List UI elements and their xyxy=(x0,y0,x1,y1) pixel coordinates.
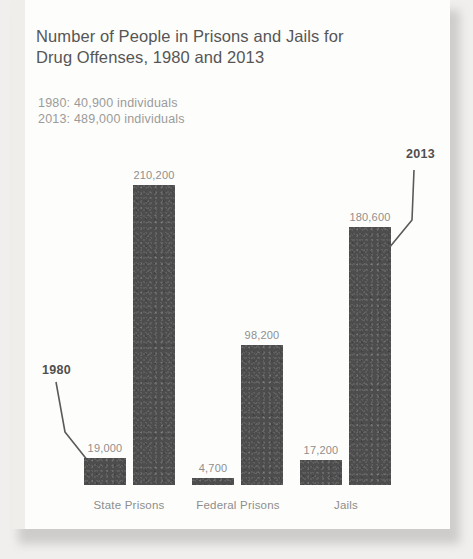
category-label-federal-prisons: Federal Prisons xyxy=(178,499,298,511)
jails-2013-bar-value-label: 180,600 xyxy=(335,211,405,223)
federal-prisons-2013-bar-value-label: 98,200 xyxy=(227,329,297,341)
state-prisons-2013-bar xyxy=(133,185,175,485)
state-prisons-1980-bar xyxy=(84,458,126,485)
chart-page: Number of People in Prisons and Jails fo… xyxy=(0,0,473,559)
state-prisons-1980-bar-value-label: 19,000 xyxy=(70,442,140,454)
jails-2013-bar xyxy=(349,227,391,485)
federal-prisons-1980-bar-value-label: 4,700 xyxy=(178,462,248,474)
plot-area: 19,000210,2004,70098,20017,200180,600Sta… xyxy=(12,0,450,529)
federal-prisons-1980-bar xyxy=(192,478,234,485)
leader-line-2013 xyxy=(389,170,414,248)
chart-card: Number of People in Prisons and Jails fo… xyxy=(12,0,450,529)
ann-1980-label: 1980 xyxy=(42,363,71,377)
category-label-state-prisons: State Prisons xyxy=(69,499,189,511)
state-prisons-2013-bar-value-label: 210,200 xyxy=(119,169,189,181)
jails-1980-bar-value-label: 17,200 xyxy=(286,444,356,456)
category-label-jails: Jails xyxy=(286,499,406,511)
jails-1980-bar xyxy=(300,460,342,485)
ann-2013-label: 2013 xyxy=(406,147,435,161)
federal-prisons-2013-bar xyxy=(241,345,283,485)
